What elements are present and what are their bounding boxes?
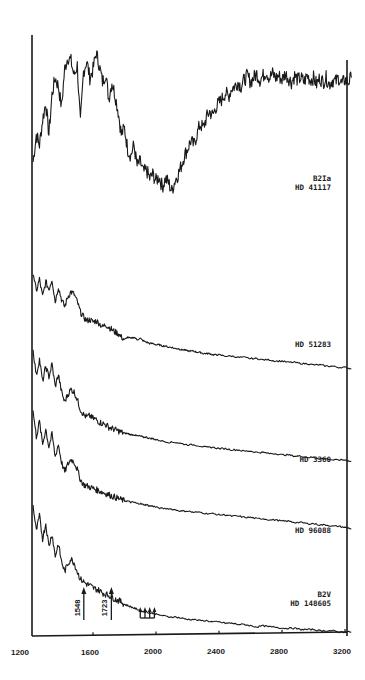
spectrum-line-b2ia-hd-41117 xyxy=(33,51,351,193)
spectra-chart: B2IaHD 41117HD 51283HD 3360HD 96088B2VHD… xyxy=(0,0,365,680)
arrowhead-icon xyxy=(81,587,86,594)
series-label: HD 3360 xyxy=(299,455,331,464)
series-label: HD 41117 xyxy=(295,183,331,192)
x-tick-label: 2000 xyxy=(144,647,162,656)
bottom-axis-line xyxy=(32,632,347,636)
series-label: B2Ia xyxy=(313,174,332,183)
spectrum-line-hd-3360 xyxy=(33,350,351,462)
series-labels: B2IaHD 41117HD 51283HD 3360HD 96088B2VHD… xyxy=(290,174,331,608)
spectrum-line-hd-96088 xyxy=(33,411,351,529)
arrowhead-icon xyxy=(148,607,152,612)
arrowhead-icon xyxy=(153,607,157,612)
series-label: B2V xyxy=(317,590,331,599)
plot-frame xyxy=(32,35,347,636)
series-label: HD 148605 xyxy=(290,599,331,608)
arrowhead-icon xyxy=(109,587,114,594)
arrowhead-icon xyxy=(143,607,147,612)
line-marker-label: 1723 xyxy=(100,600,109,617)
series-label: HD 51283 xyxy=(295,340,332,349)
line-marker-label: 1548 xyxy=(73,600,82,617)
x-tick-label: 2400 xyxy=(207,647,225,656)
x-tick-label: 1600 xyxy=(81,648,99,657)
spectrum-line-hd-51283 xyxy=(33,275,351,369)
x-tick-label: 2800 xyxy=(270,647,288,656)
x-tick-label: 3200 xyxy=(333,647,351,656)
x-tick-label: 1200 xyxy=(11,648,29,657)
line-annotations: 15481723 xyxy=(73,587,156,620)
series-label: HD 96088 xyxy=(295,526,332,535)
